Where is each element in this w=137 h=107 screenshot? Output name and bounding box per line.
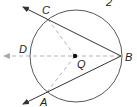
segment-qa bbox=[47, 56, 75, 92]
ray-bc bbox=[23, 7, 121, 56]
label-d: D bbox=[19, 43, 27, 55]
label-a: A bbox=[39, 96, 47, 107]
label-b: B bbox=[125, 51, 132, 63]
segment-qc bbox=[47, 18, 75, 56]
geometry-diagram: C D Q B A 2 bbox=[0, 0, 137, 107]
ray-ba bbox=[23, 56, 121, 104]
label-c: C bbox=[42, 4, 50, 16]
corner-label: 2 bbox=[105, 0, 112, 8]
label-q: Q bbox=[77, 58, 86, 70]
